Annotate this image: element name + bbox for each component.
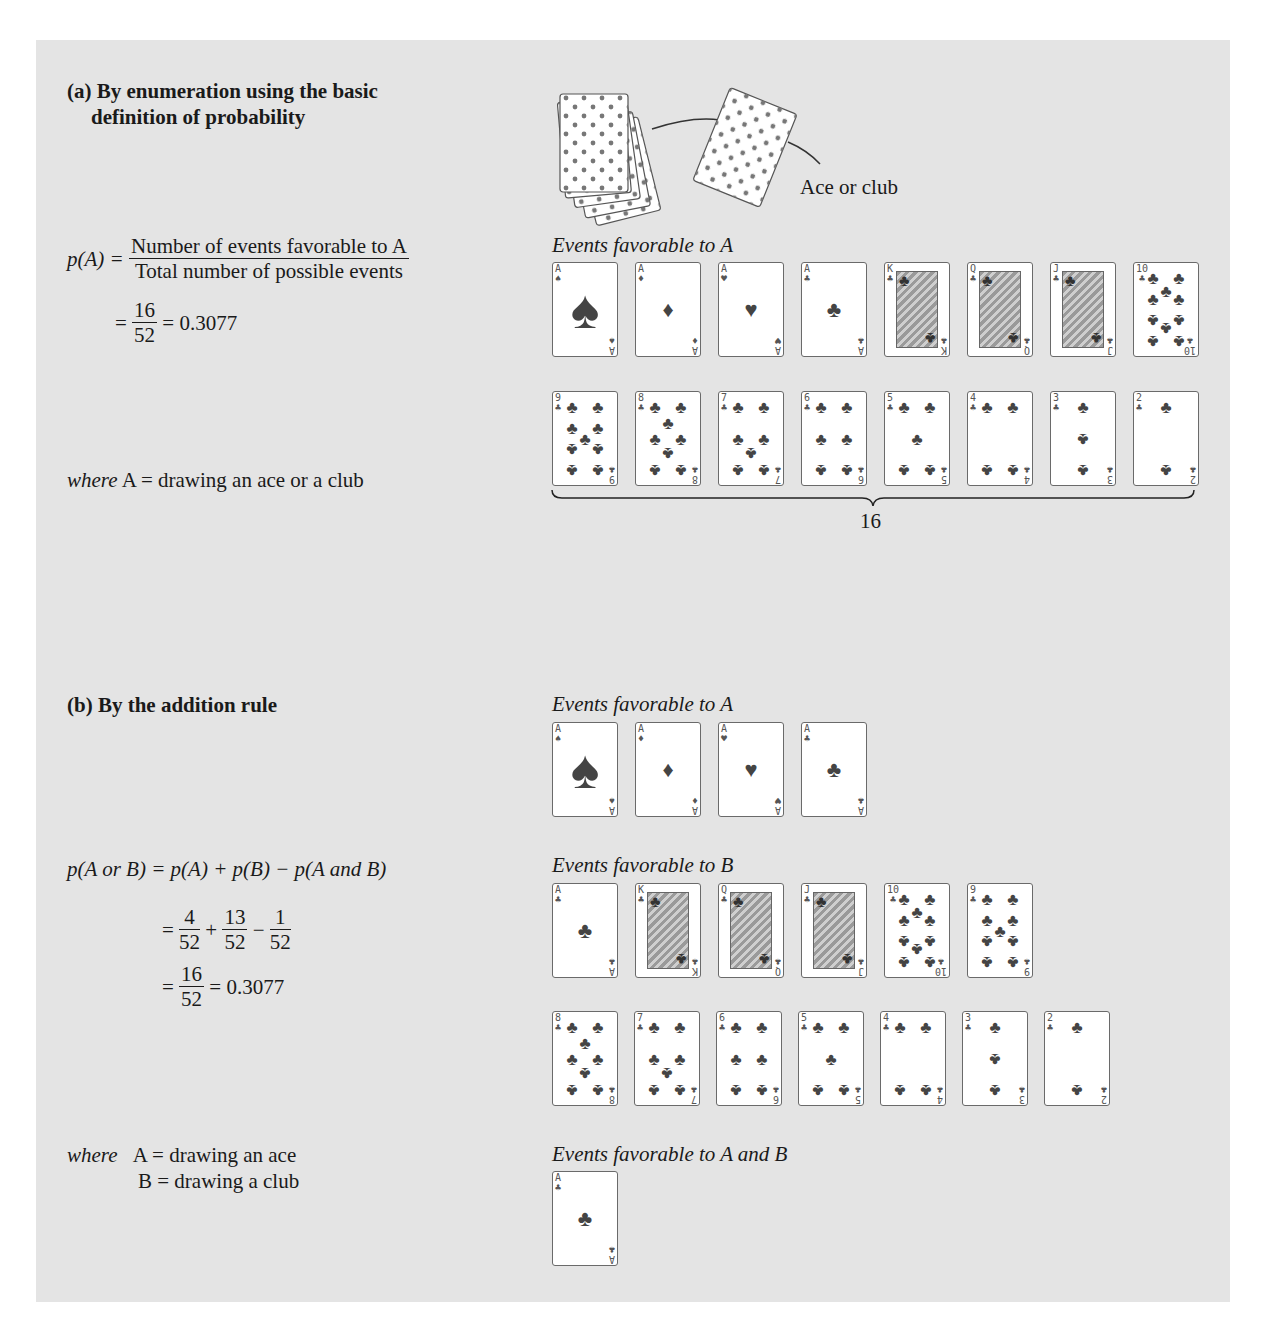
club-pip-icon: ♣ xyxy=(675,430,686,447)
card-corner-index: 7♣ xyxy=(721,393,727,413)
club-pip-icon: ♣ xyxy=(579,1034,590,1051)
section-b-heading: (b) By the addition rule xyxy=(67,692,277,718)
card-corner-index: J♣ xyxy=(858,956,864,976)
playing-card: A♥A♥♥ xyxy=(718,722,784,817)
numerator: 13 xyxy=(222,905,247,930)
club-pip-icon: ♣ xyxy=(758,398,769,415)
club-pip-icon: ♣ xyxy=(650,398,661,415)
club-pip-icon: ♣ xyxy=(899,954,910,971)
club-pip-icon: ♣ xyxy=(567,420,578,437)
card-corner-index: 6♣ xyxy=(773,1084,779,1104)
playing-card: A♥A♥♥ xyxy=(718,262,784,357)
card-corner-index: A♥ xyxy=(721,724,727,744)
club-pip-icon: ♣ xyxy=(1007,912,1018,929)
card-corner-index: K♣ xyxy=(887,264,893,284)
club-pip-icon: ♣ xyxy=(579,1065,590,1082)
addition-rule-formula: p(A or B) = p(A) + p(B) − p(A and B) xyxy=(67,856,386,882)
where-prefix: where xyxy=(67,468,118,492)
club-pip-icon: ♣ xyxy=(567,1050,578,1067)
card-corner-index: Q♣ xyxy=(775,956,781,976)
card-corner-index: 4♣ xyxy=(970,393,976,413)
fraction-3: 1 52 xyxy=(270,905,291,954)
face-card-art: ♣♣ xyxy=(647,892,689,969)
club-pip-icon: ♣ xyxy=(911,903,922,920)
where-b: where A = drawing an ace xyxy=(67,1142,296,1168)
card-corner-index: 10♣ xyxy=(935,956,947,976)
club-pip-icon: ♣ xyxy=(731,1082,742,1099)
events-label-b-ab: Events favorable to A and B xyxy=(552,1142,787,1167)
card-corner-index: A♣ xyxy=(555,885,561,905)
card-corner-index: 8♣ xyxy=(555,1013,561,1033)
club-pip-icon: ♣ xyxy=(1077,398,1088,415)
club-pip-icon: ♣ xyxy=(592,440,603,457)
playing-card: 6♣6♣♣♣♣♣♣♣ xyxy=(716,1011,782,1106)
club-pip-icon: ♣ xyxy=(924,932,935,949)
where-a: where A = drawing an ace or a club xyxy=(67,467,364,493)
club-pip-icon: ♣ xyxy=(1071,1082,1082,1099)
club-pip-icon: ♣ xyxy=(899,398,910,415)
club-pip-icon: ♣ xyxy=(841,430,852,447)
club-pip-icon: ♣ xyxy=(982,912,993,929)
card-corner-index: Q♣ xyxy=(970,264,976,284)
where-line-2: B = drawing a club xyxy=(138,1168,299,1194)
events-label-b-b: Events favorable to B xyxy=(552,853,733,878)
playing-card: 7♣7♣♣♣♣♣♣♣♣ xyxy=(718,391,784,486)
club-pip-icon: ♣ xyxy=(911,941,922,958)
face-card-art: ♣♣ xyxy=(730,892,772,969)
card-corner-index: 9♣ xyxy=(1024,956,1030,976)
club-pip-icon: ♣ xyxy=(982,398,993,415)
playing-card: A♣A♣♣ xyxy=(552,883,618,978)
club-pip-icon: ♣ xyxy=(1160,398,1171,415)
suit-icon: ♥ xyxy=(744,759,757,781)
club-pip-icon: ♣ xyxy=(895,1018,906,1035)
club-pip-icon: ♣ xyxy=(813,1018,824,1035)
card-corner-index: J♣ xyxy=(804,885,810,905)
card-corner-index: 4♣ xyxy=(937,1084,943,1104)
playing-card: 2♣2♣♣♣ xyxy=(1133,391,1199,486)
playing-card: K♣K♣♣♣ xyxy=(884,262,950,357)
club-pip-icon: ♣ xyxy=(592,420,603,437)
card-corner-index: 10♣ xyxy=(1136,264,1148,284)
card-corner-index: 7♣ xyxy=(775,464,781,484)
club-pip-icon: ♣ xyxy=(731,1018,742,1035)
minus: − xyxy=(253,918,265,942)
card-corner-index: 2♣ xyxy=(1136,393,1142,413)
addition-step-2: = 16 52 = 0.3077 xyxy=(162,962,284,1011)
numerator: Number of events favorable to A xyxy=(129,234,409,259)
club-pip-icon: ♣ xyxy=(1173,269,1184,286)
where-text: A = drawing an ace or a club xyxy=(122,468,364,492)
equals: = xyxy=(162,918,174,942)
club-pip-icon: ♣ xyxy=(650,462,661,479)
club-pip-icon: ♣ xyxy=(1007,398,1018,415)
playing-card: Q♣Q♣♣♣ xyxy=(967,262,1033,357)
card-corner-index: 8♣ xyxy=(638,393,644,413)
club-pip-icon: ♣ xyxy=(911,430,922,447)
club-pip-icon: ♣ xyxy=(924,912,935,929)
club-pip-icon: ♣ xyxy=(733,398,744,415)
card-corner-index: A♥ xyxy=(721,264,727,284)
card-corner-index: A♣ xyxy=(858,335,864,355)
club-pip-icon: ♣ xyxy=(1077,462,1088,479)
playing-card: 4♣4♣♣♣♣♣ xyxy=(880,1011,946,1106)
result: = 0.3077 xyxy=(209,975,284,999)
step-fraction: 16 52 xyxy=(132,298,157,347)
card-corner-index: 3♣ xyxy=(1019,1084,1025,1104)
club-pip-icon: ♣ xyxy=(816,430,827,447)
face-card-art: ♣♣ xyxy=(1062,271,1104,348)
club-pip-icon: ♣ xyxy=(758,430,769,447)
card-corner-index: A♠ xyxy=(609,795,615,815)
denominator: 52 xyxy=(179,930,200,954)
card-corner-index: J♣ xyxy=(1107,335,1113,355)
result-fraction: 16 52 xyxy=(179,962,204,1011)
club-pip-icon: ♣ xyxy=(924,462,935,479)
club-pip-icon: ♣ xyxy=(592,1082,603,1099)
card-corner-index: Q♣ xyxy=(1024,335,1030,355)
where-line-1: A = drawing an ace xyxy=(133,1143,296,1167)
club-pip-icon: ♣ xyxy=(662,445,673,462)
playing-card: 4♣4♣♣♣♣♣ xyxy=(967,391,1033,486)
card-corner-index: A♦ xyxy=(692,795,698,815)
club-pip-icon: ♣ xyxy=(989,1050,1000,1067)
club-pip-icon: ♣ xyxy=(899,462,910,479)
plus: + xyxy=(205,918,217,942)
card-corner-index: A♠ xyxy=(555,264,561,284)
